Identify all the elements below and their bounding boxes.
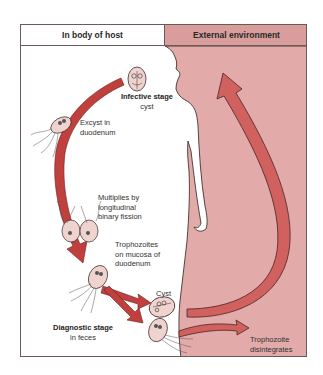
trophozoites-label: Trophozoites on mucosa of duodenum bbox=[115, 240, 160, 269]
trophozoites-line1: Trophozoites bbox=[115, 240, 160, 250]
multiplies-label: Multiplies by longitudinal binary fissio… bbox=[98, 193, 142, 222]
to-trophozoite-arrow bbox=[104, 286, 143, 323]
excyst-label: Excyst in duodenum bbox=[80, 118, 115, 137]
infective-cyst-icon bbox=[128, 67, 146, 91]
disintegrates-line2: disintegrates bbox=[250, 345, 293, 355]
life-cycle-diagram: In body of host External environment Inf… bbox=[20, 24, 307, 357]
diagnostic-stage-title: Diagnostic stage bbox=[43, 323, 123, 333]
excyst-line2: duodenum bbox=[80, 128, 115, 138]
trophozoites-line3: duodenum bbox=[115, 259, 160, 269]
infective-stage-title: Infective stage bbox=[111, 92, 183, 102]
environment-column-header: External environment bbox=[165, 25, 307, 46]
diagram-artwork bbox=[21, 25, 307, 357]
infective-stage-subtitle: cyst bbox=[111, 102, 183, 112]
excyst-line1: Excyst in bbox=[80, 118, 115, 128]
diagnostic-stage-subtitle: in feces bbox=[43, 333, 123, 343]
trophozoites-line2: on mucosa of bbox=[115, 250, 160, 260]
multiplies-line1: Multiplies by bbox=[98, 193, 142, 203]
multiplies-line2: longitudinal bbox=[98, 203, 142, 213]
infective-stage-label: Infective stage cyst bbox=[111, 92, 183, 111]
disintegrates-line1: Trophozoite bbox=[250, 335, 293, 345]
host-column-header: In body of host bbox=[21, 25, 165, 46]
trophozoite-disintegrates-label: Trophozoite disintegrates bbox=[250, 335, 293, 354]
diagnostic-stage-label: Diagnostic stage in feces bbox=[43, 323, 123, 342]
cyst-label: Cyst bbox=[156, 289, 171, 299]
multiplies-line3: binary fission bbox=[98, 212, 142, 222]
